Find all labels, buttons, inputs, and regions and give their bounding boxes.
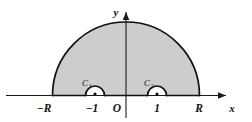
tick-label-minus-one: −1: [86, 102, 99, 114]
x-axis-label: x: [228, 102, 235, 114]
y-axis-label: y: [112, 6, 119, 18]
tick-label-r: R: [194, 102, 203, 114]
pole-dot-plus-one: [155, 92, 158, 95]
y-axis-arrow-icon: [123, 12, 130, 20]
contour-label-c2-subscript: 2: [150, 82, 153, 89]
contour-label-c1-subscript: 1: [88, 82, 91, 89]
tick-label-minus-r: −R: [37, 102, 52, 114]
contour-diagram: C1 C2 −R −1 O 1 R x y: [0, 0, 252, 122]
pole-dot-minus-one: [93, 92, 96, 95]
contour-figure: C1 C2 −R −1 O 1 R x y: [0, 0, 252, 122]
x-axis-arrow-icon: [218, 92, 226, 99]
tick-label-one: 1: [154, 102, 160, 114]
origin-label: O: [113, 102, 121, 114]
